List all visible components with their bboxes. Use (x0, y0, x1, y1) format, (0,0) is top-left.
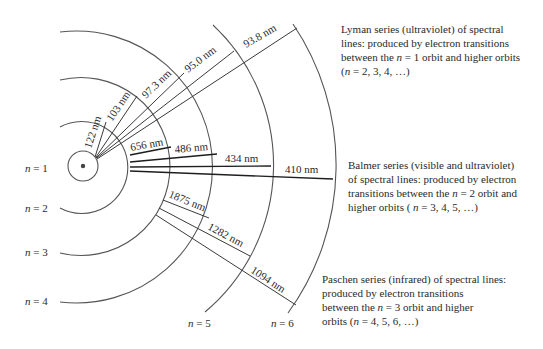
description-line: Lyman series (ultraviolet) of spectral (341, 22, 541, 36)
description-line: produced by electron transitions (322, 286, 543, 300)
orbit-label-n1: n = 1 (25, 162, 48, 174)
svg-text:486 nm: 486 nm (174, 140, 209, 155)
svg-text:1282 nm: 1282 nm (206, 220, 246, 249)
svg-text:1094 nm: 1094 nm (249, 264, 288, 295)
description-line: (n = 2, 3, 4, …) (341, 64, 541, 78)
description-line: higher orbits ( n = 3, 4, 5, …) (348, 200, 543, 214)
description-line: Paschen series (infrared) of spectral li… (322, 272, 543, 286)
svg-text:656 nm: 656 nm (129, 135, 164, 153)
orbit-label-value: = 4 (31, 295, 48, 307)
description-line: between the n = 3 orbit and higher (322, 300, 543, 314)
orbit-label-n4: n = 4 (25, 295, 48, 307)
svg-text:410 nm: 410 nm (285, 163, 319, 175)
lyman-wavelength-labels: 122 nm 103 nm 97.3 nm 95.0 nm 93.8 nm (81, 21, 278, 150)
balmer-series-description: Balmer series (visible and ultraviolet) … (348, 158, 543, 214)
orbit-label-n3: n = 3 (25, 246, 48, 258)
orbit-label-value: = 2 (31, 202, 48, 214)
svg-text:122 nm: 122 nm (81, 114, 103, 150)
nucleus-icon (81, 164, 85, 168)
orbit-label-value: = 6 (277, 317, 294, 329)
description-line: Balmer series (visible and ultraviolet) (348, 158, 543, 172)
paschen-wavelength-labels: 1875 nm 1282 nm 1094 nm (167, 188, 288, 295)
lyman-series-description: Lyman series (ultraviolet) of spectral l… (341, 22, 541, 78)
svg-text:97.3 nm: 97.3 nm (139, 66, 174, 100)
balmer-wavelength-labels: 656 nm 486 nm 434 nm 410 nm (129, 135, 318, 175)
svg-text:93.8 nm: 93.8 nm (241, 21, 279, 50)
orbit-label-n2: n = 2 (25, 202, 48, 214)
description-line: transitions between the n = 2 orbit and (348, 186, 543, 200)
orbit-label-value: = 3 (31, 246, 48, 258)
description-line: between the n = 1 orbit and higher orbit… (341, 50, 541, 64)
orbit-label-value: = 1 (31, 162, 48, 174)
description-line: of spectral lines: produced by electron (348, 172, 543, 186)
svg-text:103 nm: 103 nm (104, 88, 133, 123)
svg-text:95.0 nm: 95.0 nm (182, 43, 218, 75)
orbit-label-n5: n = 5 (188, 317, 211, 329)
description-line: orbits (n = 4, 5, 6, …) (322, 314, 543, 328)
orbit-label-n6: n = 6 (271, 317, 294, 329)
orbit-label-value: = 5 (194, 317, 211, 329)
paschen-series-description: Paschen series (infrared) of spectral li… (322, 272, 543, 328)
description-line: lines: produced by electron transitions (341, 36, 541, 50)
svg-text:434 nm: 434 nm (225, 152, 259, 164)
